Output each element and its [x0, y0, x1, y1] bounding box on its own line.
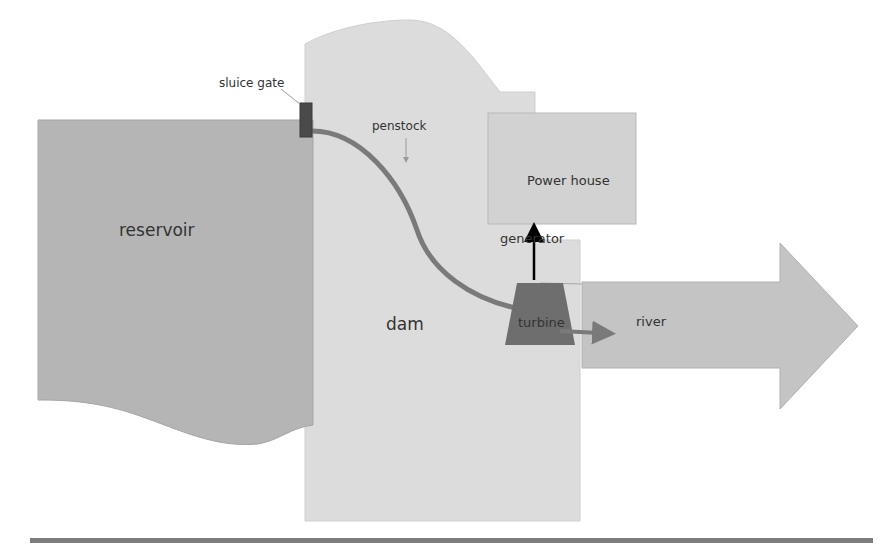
river-label: river — [636, 314, 666, 329]
penstock-label: penstock — [372, 119, 426, 133]
sluice-gate-pointer — [281, 89, 300, 104]
sluice-gate-label: sluice gate — [219, 76, 284, 90]
power-house-box — [488, 113, 636, 224]
reservoir-label: reservoir — [119, 220, 195, 240]
generator-label: generator — [500, 231, 564, 246]
dam-label: dam — [386, 314, 424, 334]
reservoir-shape — [38, 120, 313, 445]
outflow-arrow — [560, 331, 600, 333]
power-house-label: Power house — [527, 173, 610, 188]
river-arrow — [582, 243, 858, 409]
turbine-shape — [505, 283, 575, 345]
hydro-dam-diagram — [0, 0, 893, 556]
turbine-label: turbine — [518, 315, 565, 330]
ground-line — [30, 538, 873, 543]
sluice-gate — [300, 103, 312, 137]
